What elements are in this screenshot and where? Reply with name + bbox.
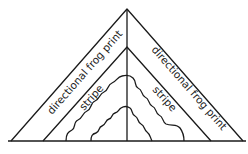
pattern-diagram: directional frog print directional frog … <box>0 0 248 154</box>
inner-wavy-line <box>91 107 152 142</box>
